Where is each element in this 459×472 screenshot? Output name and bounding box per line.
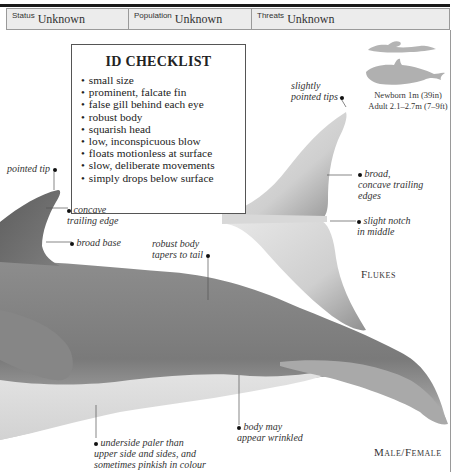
bullet-dot <box>206 254 210 258</box>
bullet-dot <box>53 168 57 172</box>
checklist-item: false gill behind each eye <box>81 98 245 110</box>
annotation-fin-tip: pointed tip <box>7 163 57 174</box>
adult-size: Adult 2.1–2.7m (7–9ft) <box>366 101 450 112</box>
flukes-title: Flukes <box>361 268 396 280</box>
bullet-dot <box>340 96 344 100</box>
annotation-fin-base: broad base <box>70 237 121 248</box>
bullet-dot <box>70 242 74 246</box>
annotation-fin-edge: concave trailing edge <box>67 204 118 226</box>
annotation-trailing-edges: broad, concave trailing edges <box>358 168 423 201</box>
annotation-wrinkled: body may appear wrinkled <box>237 421 303 443</box>
checklist-item: squarish head <box>81 123 245 135</box>
bullet-dot <box>358 173 362 177</box>
checklist-item: slow, deliberate movements <box>81 159 245 171</box>
bullet-dot <box>357 220 361 224</box>
annotation-notch: slight notch in middle <box>357 215 410 237</box>
checklist-item: floats motionless at surface <box>81 147 245 159</box>
annotation-pointed-tips: slightly pointed tips <box>291 80 344 102</box>
checklist-title: ID CHECKLIST <box>72 54 245 70</box>
annotation-tail: robust body tapers to tail <box>152 238 210 260</box>
checklist-item: low, inconspicuous blow <box>81 135 245 147</box>
checklist-list: small size prominent, falcate fin false … <box>72 74 245 184</box>
bullet-dot <box>237 426 241 430</box>
male-female-title: Male/Female <box>374 446 442 458</box>
bullet-dot <box>94 442 98 446</box>
newborn-size: Newborn 1m (39in) <box>366 90 450 101</box>
checklist-item: simply drops below surface <box>81 172 245 184</box>
checklist-item: prominent, falcate fin <box>81 86 245 98</box>
checklist-item: robust body <box>81 111 245 123</box>
checklist-item: small size <box>81 74 245 86</box>
id-checklist: ID CHECKLIST small size prominent, falca… <box>71 44 246 214</box>
swimmer-silhouette-icon <box>368 41 436 52</box>
dolphin-silhouette-icon <box>366 59 445 85</box>
annotation-underside: underside paler than upper side and side… <box>94 437 206 470</box>
size-caption: Newborn 1m (39in) Adult 2.1–2.7m (7–9ft) <box>366 90 450 112</box>
bullet-dot <box>67 209 71 213</box>
